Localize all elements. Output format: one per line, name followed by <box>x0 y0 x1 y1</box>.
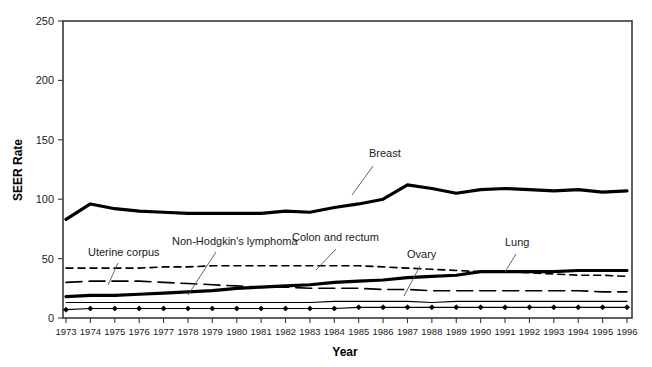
series-marker-ovary <box>502 305 507 310</box>
y-tick-label-250: 250 <box>36 15 54 27</box>
x-tick-label-1985: 1985 <box>348 326 369 337</box>
series-annotation-uterine-corpus: Uterine corpus <box>88 246 160 258</box>
series-annotation-breast: Breast <box>369 147 401 159</box>
x-tick-label-1979: 1979 <box>202 326 223 337</box>
x-tick-label-1992: 1992 <box>519 326 540 337</box>
series-annotation-non-hodgkin-s-lymphoma: Non-Hodgkin's lymphoma <box>172 235 298 247</box>
chart-canvas: 050100150200250 197319741975197619771978… <box>0 0 652 367</box>
x-tick-label-1980: 1980 <box>226 326 247 337</box>
series-marker-ovary <box>332 306 337 311</box>
leader-ovary <box>404 266 420 296</box>
series-marker-ovary <box>137 306 142 311</box>
x-tick-label-1987: 1987 <box>397 326 418 337</box>
series-marker-ovary <box>161 306 166 311</box>
series-marker-ovary <box>527 305 532 310</box>
series-marker-ovary <box>576 305 581 310</box>
series-marker-ovary <box>185 306 190 311</box>
series-marker-ovary <box>405 305 410 310</box>
series-marker-ovary <box>600 305 605 310</box>
series-marker-ovary <box>63 307 68 312</box>
x-tick-label-1974: 1974 <box>80 326 101 337</box>
y-tick-label-100: 100 <box>36 193 54 205</box>
series-marker-ovary <box>478 305 483 310</box>
x-tick-label-1988: 1988 <box>421 326 442 337</box>
seer-rate-line-chart: 050100150200250 197319741975197619771978… <box>0 0 652 367</box>
y-tick-label-200: 200 <box>36 74 54 86</box>
series-marker-ovary <box>624 305 629 310</box>
y-axis-title: SEER Rate <box>11 139 25 201</box>
series-marker-ovary <box>454 305 459 310</box>
x-tick-label-1984: 1984 <box>324 326 345 337</box>
series-annotation-ovary: Ovary <box>407 248 437 260</box>
leader-non-hodgkins-lymphoma <box>188 252 216 295</box>
y-tick-label-0: 0 <box>48 312 54 324</box>
x-tick-label-1973: 1973 <box>55 326 76 337</box>
series-marker-ovary <box>380 305 385 310</box>
series-marker-ovary <box>429 305 434 310</box>
series-line-lung <box>66 270 627 296</box>
x-tick-label-1981: 1981 <box>251 326 272 337</box>
series-annotation-colon-and-rectum: Colon and rectum <box>292 231 379 243</box>
series-marker-ovary <box>307 306 312 311</box>
x-tick-label-1989: 1989 <box>446 326 467 337</box>
annotation-labels: BreastNon-Hodgkin's lymphomaColon and re… <box>88 147 529 260</box>
x-tick-label-1983: 1983 <box>299 326 320 337</box>
y-tick-label-150: 150 <box>36 134 54 146</box>
series-line-breast <box>66 185 627 219</box>
y-tick-label-50: 50 <box>42 253 54 265</box>
series-marker-ovary <box>551 305 556 310</box>
series-marker-ovary <box>356 305 361 310</box>
x-tick-label-1991: 1991 <box>494 326 515 337</box>
x-tick-label-1996: 1996 <box>616 326 637 337</box>
x-tick-label-1995: 1995 <box>592 326 613 337</box>
x-tick-label-1986: 1986 <box>373 326 394 337</box>
series-marker-ovary <box>88 306 93 311</box>
series-line-non-hodgkin-s-lymphoma <box>66 301 627 302</box>
series-marker-ovary <box>259 306 264 311</box>
series-marker-ovary <box>210 306 215 311</box>
x-tick-label-1990: 1990 <box>470 326 491 337</box>
series-marker-ovary <box>234 306 239 311</box>
x-tick-label-1976: 1976 <box>129 326 150 337</box>
series-marker-ovary <box>283 306 288 311</box>
x-axis: 1973197419751976197719781979198019811982… <box>55 318 637 337</box>
series-line-ovary <box>66 307 627 309</box>
x-tick-label-1978: 1978 <box>177 326 198 337</box>
x-tick-label-1982: 1982 <box>275 326 296 337</box>
leader-colon-and-rectum <box>316 249 336 270</box>
x-axis-title: Year <box>332 345 358 359</box>
leader-lung <box>505 254 516 272</box>
x-tick-label-1993: 1993 <box>543 326 564 337</box>
x-tick-label-1977: 1977 <box>153 326 174 337</box>
x-tick-label-1994: 1994 <box>568 326 589 337</box>
x-tick-label-1975: 1975 <box>104 326 125 337</box>
series-annotation-lung: Lung <box>505 236 529 248</box>
y-axis: 050100150200250 <box>36 15 63 324</box>
series-marker-ovary <box>112 306 117 311</box>
leader-breast <box>352 166 373 195</box>
